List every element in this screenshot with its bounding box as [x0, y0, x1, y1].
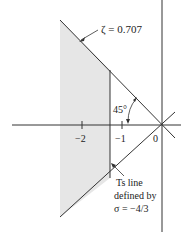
tick-label-minus2: −2 — [75, 133, 86, 144]
shaded-region — [60, 20, 110, 217]
angle-arrowhead-top-icon — [133, 97, 137, 102]
angle-arrowhead-bottom-icon — [126, 119, 130, 124]
angle-label: 45° — [113, 104, 127, 115]
origin-label: 0 — [153, 133, 158, 144]
ts-label-line1: Ts line — [116, 177, 143, 188]
ts-label-line2: defined by — [114, 190, 157, 201]
ts-label-line3: σ = −4/3 — [114, 203, 148, 214]
s-plane-diagram: −2 −1 0 ζ = 0.707 45° Ts line defined by… — [0, 0, 188, 243]
angle-arc — [128, 99, 136, 122]
ts-leader — [113, 165, 124, 176]
tick-label-minus1: −1 — [115, 133, 126, 144]
zeta-label: ζ = 0.707 — [101, 23, 143, 36]
